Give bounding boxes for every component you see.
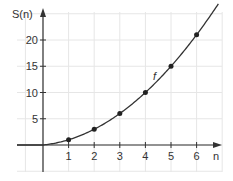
x-tick-label: 1 (66, 150, 72, 162)
curve-f (17, 4, 218, 145)
y-axis-label: S(n) (12, 8, 33, 20)
data-point (92, 127, 97, 132)
data-point (194, 32, 199, 37)
x-tick-label: 5 (168, 150, 174, 162)
data-point (169, 64, 174, 69)
data-points (66, 32, 199, 142)
x-tick-label: 2 (91, 150, 97, 162)
x-tick-label: 6 (194, 150, 200, 162)
data-point (143, 90, 148, 95)
chart: 1234565101520 S(n) n f (0, 0, 233, 181)
x-tick-label: 3 (117, 150, 123, 162)
curve-label: f (153, 70, 157, 82)
y-tick-label: 15 (26, 60, 38, 72)
y-tick-label: 20 (26, 34, 38, 46)
data-point (117, 111, 122, 116)
data-point (66, 137, 71, 142)
y-tick-label: 5 (32, 113, 38, 125)
tick-labels: 1234565101520 (26, 34, 200, 162)
y-axis-arrow-icon (40, 8, 46, 17)
x-axis-arrow-icon (213, 142, 222, 148)
x-tick-label: 4 (142, 150, 148, 162)
y-tick-label: 10 (26, 87, 38, 99)
x-axis-label: n (213, 150, 219, 162)
